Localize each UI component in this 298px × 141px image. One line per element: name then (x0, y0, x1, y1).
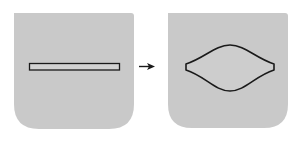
arrow-right-icon (139, 63, 155, 70)
panel-before (14, 13, 134, 129)
diagram (0, 0, 298, 141)
panel-after (168, 13, 288, 128)
closed-slit (30, 64, 120, 71)
panel-before-shape (14, 13, 134, 129)
